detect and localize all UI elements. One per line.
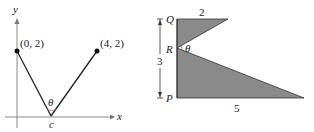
angle-theta-label: θ (185, 42, 191, 54)
vertex-p-label: P (165, 92, 173, 104)
point-b-label: (4, 2) (100, 37, 124, 50)
point-b (95, 49, 100, 54)
point-a (15, 49, 20, 54)
vertex-c-label: c (49, 118, 54, 130)
point-a-label: (0, 2) (20, 37, 44, 50)
diagram-canvas: x y (0, 2) (4, 2) c θ Q R P 2 3 5 θ (0, 0, 314, 132)
top-length-label: 2 (199, 6, 205, 18)
dimension-arrow-down-icon (158, 92, 162, 97)
vertex-q-label: Q (166, 13, 174, 25)
y-axis-arrow-icon (15, 18, 20, 24)
x-axis-label: x (116, 110, 122, 122)
segment-right (51, 51, 97, 116)
angle-theta-label: θ (48, 96, 54, 108)
vertex-r-label: R (165, 43, 173, 55)
segment-left (17, 51, 51, 116)
y-axis-label: y (12, 3, 18, 15)
base-length-label: 5 (234, 102, 240, 114)
dimension-arrow-up-icon (158, 20, 162, 25)
angle-arc-icon (47, 109, 56, 110)
bottom-triangle (177, 48, 304, 98)
left-figure: x y (0, 2) (4, 2) c θ (5, 3, 124, 130)
right-figure: Q R P 2 3 5 θ (156, 6, 304, 114)
height-length-label: 3 (157, 55, 163, 67)
angle-arc-icon (181, 46, 182, 51)
x-axis-arrow-icon (110, 115, 115, 120)
